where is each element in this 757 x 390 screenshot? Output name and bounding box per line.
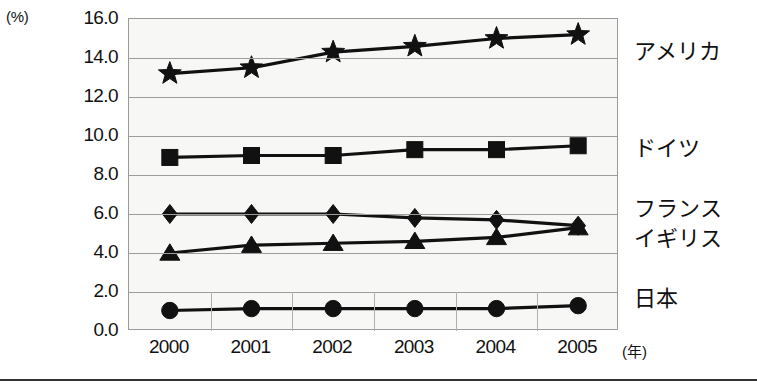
series-square [162,138,586,166]
data-point-marker [407,142,423,158]
series-diamond [162,205,585,236]
x-tick-label: 2002 [287,336,377,358]
series-label-circle: 日本 [634,287,678,311]
gridline [129,58,617,59]
data-point-marker [567,23,590,45]
data-point-marker [407,300,423,316]
data-point-marker [403,34,426,56]
data-point-marker [407,208,422,227]
plot-area [128,18,618,330]
data-point-marker [488,300,504,316]
data-point-marker [162,149,178,165]
data-point-marker [244,148,260,164]
data-point-marker [485,27,508,49]
gridline [129,175,617,176]
gridline [129,292,617,293]
series-label-diamond: フランス [634,197,722,221]
chart-figure: (%) 16.014.012.010.08.06.04.02.00.0 2000… [0,0,757,390]
bottom-rule [0,379,757,381]
y-tick-label: 14.0 [56,47,118,66]
series-star [158,23,589,84]
y-axis-tick-labels: 16.014.012.010.08.06.04.02.00.0 [54,0,118,390]
x-minor-tick [537,292,538,331]
gridline [129,136,617,137]
y-tick-label: 0.0 [56,320,118,339]
data-point-marker [489,142,505,158]
x-axis-tick-labels: 200020012002200320042005 [128,336,618,366]
x-tick-label: 2001 [206,336,296,358]
y-tick-label: 4.0 [56,242,118,261]
data-point-marker [240,56,263,78]
y-tick-label: 8.0 [56,164,118,183]
x-tick-label: 2004 [451,336,541,358]
series-line [170,214,578,226]
series-label-star: アメリカ [634,40,721,64]
data-point-marker [325,148,341,164]
y-tick-label: 16.0 [56,8,118,27]
x-tick-label: 2000 [124,336,214,358]
data-point-marker [158,62,181,84]
y-tick-label: 10.0 [56,125,118,144]
series-label-square: ドイツ [634,137,700,161]
gridline [129,253,617,254]
data-point-marker [570,138,586,154]
x-minor-tick [456,292,457,331]
data-point-marker [243,300,259,316]
data-point-marker [570,297,586,313]
y-axis-unit-label: (%) [6,8,28,25]
x-minor-tick [211,292,212,331]
series-line [170,35,578,74]
series-line [170,228,578,253]
data-point-marker [162,302,178,318]
y-tick-label: 2.0 [56,281,118,300]
gridline [129,97,617,98]
y-tick-label: 12.0 [56,86,118,105]
x-axis-unit-label: (年) [622,340,647,361]
data-point-marker [325,300,341,316]
series-label-triangle: イギリス [634,227,722,251]
x-tick-label: 2005 [532,336,622,358]
x-minor-tick [292,292,293,331]
x-tick-label: 2003 [369,336,459,358]
y-tick-label: 6.0 [56,203,118,222]
x-minor-tick [374,292,375,331]
series-line [170,146,578,158]
gridline [129,214,617,215]
